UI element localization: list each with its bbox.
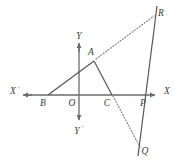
geometry-canvas: B O C P A R Q X ' X Y Y ' <box>0 0 175 163</box>
geometry-figure: B O C P A R Q X ' X Y Y ' <box>0 0 175 163</box>
dotted-AR <box>96 16 154 59</box>
point-label-B: B <box>40 98 46 108</box>
point-label-C: C <box>104 98 111 108</box>
axis-label-x-positive: X <box>163 86 171 96</box>
line-RQ <box>138 6 157 156</box>
axis-label-y-negative: Y <box>74 126 81 136</box>
point-label-Q: Q <box>142 146 149 156</box>
segment-AC <box>94 61 112 95</box>
axis-label-x-negative-prime: ' <box>18 85 19 93</box>
point-label-R: R <box>157 8 164 18</box>
axis-label-y-negative-prime: ' <box>82 124 83 132</box>
point-label-A: A <box>87 47 94 57</box>
segment-BA <box>48 61 94 95</box>
axis-label-y-positive: Y <box>76 31 83 41</box>
point-label-O: O <box>69 98 76 108</box>
point-label-P: P <box>139 98 146 108</box>
dotted-CQ <box>113 96 140 147</box>
axis-label-x-negative: X <box>9 86 17 96</box>
